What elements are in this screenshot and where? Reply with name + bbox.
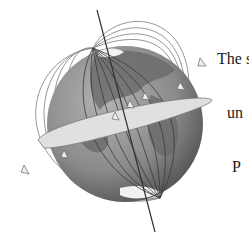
earth-magnetic-field-figure (0, 0, 249, 239)
caption-line-2: un (227, 104, 249, 122)
caption-text: The s un P (217, 14, 249, 194)
caption-line-1: The s (217, 50, 249, 68)
caption-line-3: P (232, 158, 249, 176)
